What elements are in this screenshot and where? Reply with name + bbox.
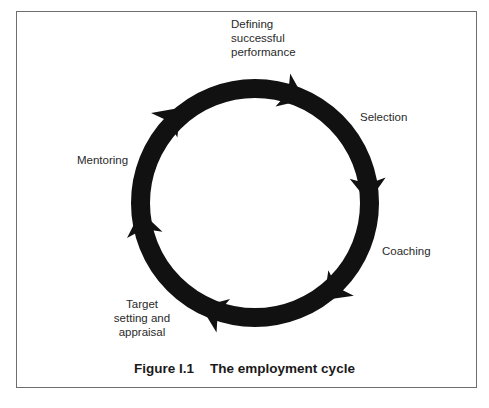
label-line: Selection — [360, 110, 407, 124]
label-line: performance — [231, 45, 296, 59]
stage-label-defining-successful-performance: Defining successful performance — [231, 17, 296, 59]
label-line: successful — [231, 31, 296, 45]
stage-label-target-setting-and-appraisal: Target setting and appraisal — [110, 297, 174, 339]
label-line: Target — [110, 297, 174, 311]
stage-label-selection: Selection — [360, 110, 407, 124]
stage-label-coaching: Coaching — [382, 244, 431, 258]
figure-caption: Figure I.1The employment cycle — [0, 361, 489, 376]
label-line: setting and — [110, 311, 174, 325]
label-line: Defining — [231, 17, 296, 31]
label-line: Coaching — [382, 244, 431, 258]
label-line: Mentoring — [77, 153, 128, 167]
arrowheads — [123, 73, 387, 332]
figure-number: Figure I.1 — [134, 361, 194, 376]
employment-cycle-diagram — [0, 0, 489, 408]
figure-title: The employment cycle — [210, 361, 355, 376]
label-line: appraisal — [110, 325, 174, 339]
stage-label-mentoring: Mentoring — [77, 153, 128, 167]
